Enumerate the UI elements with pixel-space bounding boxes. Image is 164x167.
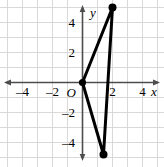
y-tick-label-neg2: –2 xyxy=(61,105,75,120)
y-tick-label-neg4: –4 xyxy=(61,135,76,150)
coordinate-plane-figure: –4 –2 2 4 4 2 –2 –4 O x y xyxy=(0,0,164,167)
x-tick-label-pos2: 2 xyxy=(109,84,116,99)
vertex-dot-bottom xyxy=(100,151,108,159)
origin-label: O xyxy=(67,85,77,100)
y-tick-label-pos2: 2 xyxy=(69,45,76,60)
vertex-dot-top xyxy=(109,4,117,12)
x-axis-label: x xyxy=(150,84,157,99)
y-axis-label: y xyxy=(88,5,96,20)
x-tick-label-neg4: –4 xyxy=(15,84,30,99)
x-tick-label-neg2: –2 xyxy=(45,84,59,99)
vertex-dot-origin xyxy=(79,79,86,86)
y-tick-label-pos4: 4 xyxy=(69,15,76,30)
x-tick-label-pos4: 4 xyxy=(139,84,146,99)
coordinate-plane-svg: –4 –2 2 4 4 2 –2 –4 O x y xyxy=(0,0,164,167)
